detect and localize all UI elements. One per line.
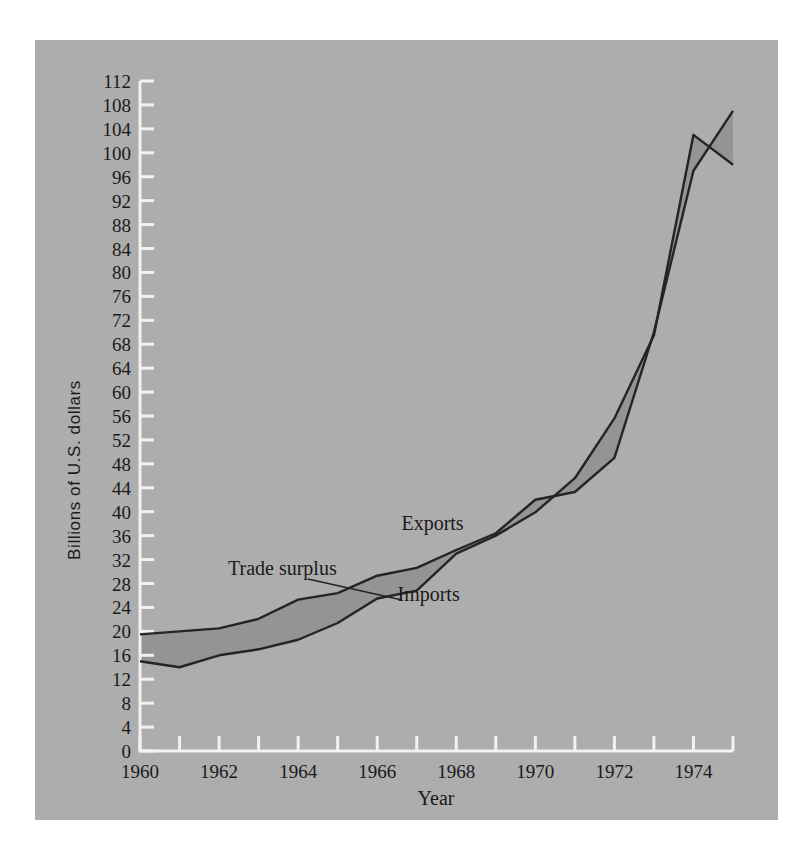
figure-page: 0481216202428323640444852566064687276808…	[0, 0, 806, 861]
y-axis-tick-label: 8	[122, 693, 132, 714]
x-axis-title: Year	[418, 787, 455, 809]
y-axis-tick-label: 28	[112, 574, 131, 595]
y-axis-tick-label: 32	[112, 550, 131, 571]
y-axis-tick-label: 92	[112, 191, 131, 212]
y-axis-tick-label: 80	[112, 262, 131, 283]
y-axis-tick-label: 12	[112, 669, 131, 690]
y-axis-tick-labels: 0481216202428323640444852566064687276808…	[103, 71, 132, 762]
trade-balance-chart: 0481216202428323640444852566064687276808…	[0, 0, 806, 861]
y-axis-tick-label: 36	[112, 526, 131, 547]
annotation-trade-surplus: Trade surplus	[228, 557, 337, 580]
x-axis-tick-label: 1964	[279, 761, 318, 782]
y-axis-tick-label: 24	[112, 597, 132, 618]
y-axis-tick-label: 48	[112, 454, 131, 475]
y-axis-tick-label: 96	[112, 167, 131, 188]
y-axis-tick-label: 76	[112, 286, 131, 307]
y-axis-tick-label: 72	[112, 310, 131, 331]
y-axis-tick-label: 4	[122, 717, 132, 738]
x-axis-tick-label: 1970	[516, 761, 554, 782]
y-axis-tick-label: 112	[103, 71, 131, 92]
y-axis-tick-label: 52	[112, 430, 131, 451]
y-axis-tick-label: 84	[112, 239, 132, 260]
y-axis-tick-label: 56	[112, 406, 131, 427]
y-axis-tick-label: 64	[112, 358, 132, 379]
x-axis-tick-labels: 19601962196419661968197019721974	[121, 761, 713, 782]
y-axis-tick-label: 40	[112, 502, 131, 523]
x-axis-tick-label: 1960	[121, 761, 159, 782]
x-axis-tick-label: 1974	[674, 761, 713, 782]
y-axis-tick-label: 20	[112, 621, 131, 642]
y-axis-tick-label: 108	[103, 95, 132, 116]
y-axis-tick-label: 88	[112, 215, 131, 236]
y-axis-tick-label: 16	[112, 645, 131, 666]
y-axis-tick-label: 60	[112, 382, 131, 403]
y-axis-tick-label: 104	[103, 119, 132, 140]
y-axis-title: Billions of U.S. dollars	[65, 380, 84, 560]
x-axis-tick-label: 1968	[437, 761, 475, 782]
y-axis-tick-label: 68	[112, 334, 131, 355]
x-axis-tick-label: 1962	[200, 761, 238, 782]
x-axis-tick-label: 1972	[595, 761, 633, 782]
y-axis-tick-label: 0	[122, 741, 132, 762]
annotation-exports: Exports	[401, 512, 463, 535]
x-axis-tick-label: 1966	[358, 761, 396, 782]
y-axis-tick-label: 100	[103, 143, 132, 164]
annotation-imports: Imports	[397, 583, 459, 606]
y-axis-tick-label: 44	[112, 478, 132, 499]
